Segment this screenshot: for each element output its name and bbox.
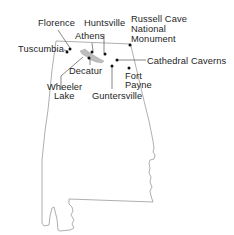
- alabama-map: [0, 0, 234, 235]
- label-decatur: Decatur: [69, 66, 102, 76]
- label-tuscumbia: Tuscumbia: [18, 44, 64, 54]
- marker-tuscumbia: [66, 51, 69, 54]
- marker-athens: [91, 51, 94, 54]
- label-florence: Florence: [38, 18, 75, 28]
- marker-decatur: [88, 57, 91, 60]
- leader-athens: [92, 43, 93, 51]
- label-wheeler-lake-line2: Lake: [54, 91, 75, 101]
- marker-huntsville: [104, 53, 107, 56]
- label-russell-cave-line1: Russell Cave: [131, 14, 187, 24]
- marker-fort-payne: [128, 67, 131, 70]
- label-russell-cave-line2: National: [131, 24, 166, 34]
- marker-cathedral-caverns: [116, 59, 119, 62]
- label-huntsville: Huntsville: [84, 18, 125, 28]
- label-russell-cave-line3: Monument: [131, 34, 176, 44]
- marker-florence: [69, 48, 72, 51]
- label-cathedral-caverns: Cathedral Caverns: [147, 56, 226, 66]
- label-fort-payne-line2: Payne: [125, 80, 152, 90]
- label-athens: Athens: [75, 31, 105, 41]
- marker-guntersville: [111, 65, 114, 68]
- label-guntersville: Guntersville: [92, 91, 142, 101]
